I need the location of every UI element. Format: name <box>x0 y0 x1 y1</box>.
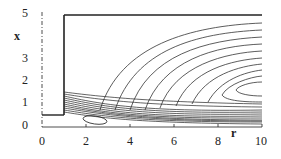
x-tick-2: 2 <box>83 134 89 149</box>
y-tick-2: 2 <box>22 73 28 88</box>
y-tick-5: 5 <box>22 6 28 21</box>
y-tick-3: 3 <box>22 51 28 66</box>
y-tick-1: 1 <box>22 95 28 110</box>
y-tick-0: 0 <box>22 118 28 133</box>
x-tick-4: 4 <box>127 134 133 149</box>
x-tick-8: 8 <box>215 134 221 149</box>
y-axis-label: x <box>14 29 20 44</box>
contours-main-vortex <box>100 23 262 110</box>
secondary-eddy <box>83 114 108 125</box>
x-tick-6: 6 <box>171 134 177 149</box>
x-axis-label: r <box>231 126 236 141</box>
x-tick-10: 10 <box>255 134 267 149</box>
contours-shear-layer <box>64 92 262 124</box>
x-tick-0: 0 <box>39 134 45 149</box>
